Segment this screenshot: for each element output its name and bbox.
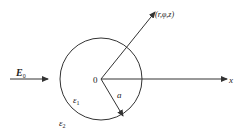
incident-field-label: E0 [15, 67, 26, 79]
origin-label: 0 [93, 75, 98, 85]
radius-label: a [117, 90, 122, 100]
field-point-label: (r,φ,z) [155, 10, 174, 19]
inner-permittivity-label: ε1 [73, 95, 80, 106]
outer-permittivity-label: ε2 [59, 118, 66, 129]
diagram: x (r,φ,z) a 0 E0 ε1 ε2 [0, 0, 239, 134]
position-vector-arrow [101, 12, 155, 79]
x-axis-label: x [228, 75, 233, 85]
